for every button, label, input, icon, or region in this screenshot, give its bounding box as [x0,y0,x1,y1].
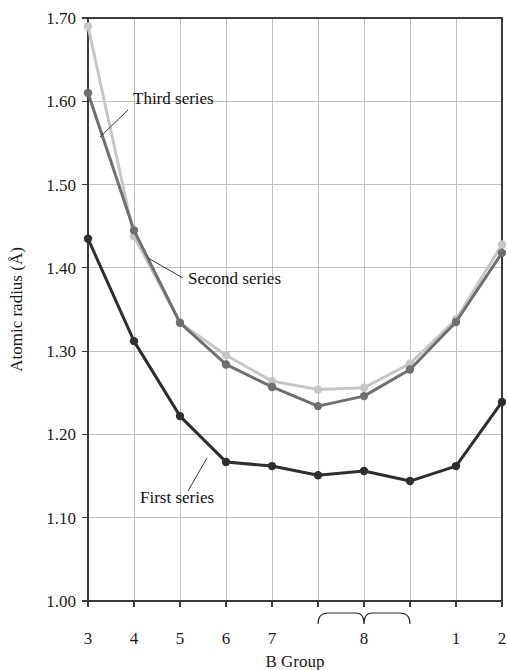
data-point [498,249,506,257]
series-line [88,26,502,389]
series-third-series [84,22,506,394]
annotation-leader-line [188,458,207,491]
y-tick-label: 1.70 [46,9,76,28]
series-annotation-label: First series [140,488,214,507]
data-point [360,384,368,392]
data-point [268,462,276,470]
data-point [452,318,460,326]
group8-brace [318,613,410,624]
y-tick-label: 1.50 [46,176,76,195]
y-tick-label: 1.20 [46,425,76,444]
y-tick-label: 1.40 [46,259,76,278]
data-point [130,226,138,234]
data-point [222,458,230,466]
y-tick-label: 1.60 [46,92,76,111]
x-tick-label: 2 [498,629,507,648]
data-point [452,462,460,470]
series-annotation-label: Second series [188,269,281,288]
data-point [314,385,322,393]
series-line [88,93,502,406]
data-point [314,402,322,410]
data-point [84,235,92,243]
data-point [176,412,184,420]
y-tick-label: 1.10 [46,509,76,528]
x-tick-label: 4 [130,629,139,648]
x-tick-label: 6 [222,629,231,648]
atomic-radius-chart-figure: 1.001.101.201.301.401.501.601.70Atomic r… [0,0,507,670]
x-tick-label: 5 [176,629,185,648]
data-point [314,471,322,479]
data-point [360,467,368,475]
x-tick-label: 8 [360,629,369,648]
data-point [176,319,184,327]
chart-canvas: 1.001.101.201.301.401.501.601.70Atomic r… [0,0,507,670]
data-point [498,240,506,248]
x-tick-label: 3 [84,629,93,648]
annotation-leader-line [100,110,128,137]
series-line [88,239,502,481]
series-first-series [84,235,506,486]
data-point [84,89,92,97]
y-axis-title: Atomic radius (Å) [7,247,26,372]
data-point [222,360,230,368]
series-annotation-label: Third series [133,89,214,108]
data-point [222,351,230,359]
x-tick-label: 7 [268,629,277,648]
x-tick-label: 1 [452,629,461,648]
x-axis-title: B Group [265,652,324,670]
x-axis: 34567812 [84,601,507,648]
y-tick-label: 1.30 [46,342,76,361]
data-point [84,22,92,30]
data-point [498,398,506,406]
data-point [406,365,414,373]
data-point [406,477,414,485]
data-point [360,392,368,400]
data-point [130,337,138,345]
y-tick-label: 1.00 [46,592,76,611]
y-axis: 1.001.101.201.301.401.501.601.70 [46,9,88,611]
data-point [268,383,276,391]
